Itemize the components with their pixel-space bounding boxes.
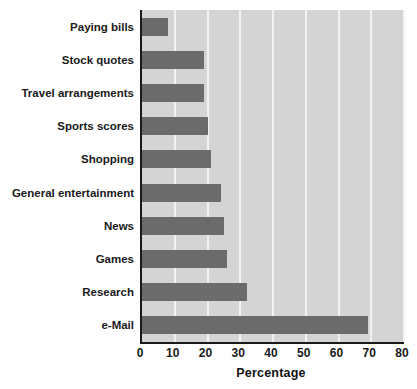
bar[interactable] [142, 84, 204, 102]
x-tick-label: 80 [395, 346, 408, 360]
category-label: e-Mail [0, 319, 134, 331]
category-axis-labels: Paying billsStock quotesTravel arrangeme… [0, 10, 134, 342]
category-label: News [0, 220, 134, 232]
plot-area [140, 10, 404, 344]
x-tick-label: 40 [264, 346, 277, 360]
x-tick-label: 30 [232, 346, 245, 360]
x-tick-label: 10 [166, 346, 179, 360]
x-tick-label: 60 [330, 346, 343, 360]
value-axis-tick-labels: 01020304050607080 [140, 346, 402, 364]
bar[interactable] [142, 150, 211, 168]
category-label: Sports scores [0, 120, 134, 132]
x-tick-label: 70 [363, 346, 376, 360]
x-tick-label: 50 [297, 346, 310, 360]
bar[interactable] [142, 217, 224, 235]
category-label: Games [0, 253, 134, 265]
x-tick-label: 0 [137, 346, 144, 360]
bar[interactable] [142, 316, 368, 334]
category-label: General entertainment [0, 187, 134, 199]
category-label: Stock quotes [0, 54, 134, 66]
x-axis-title: Percentage [140, 366, 402, 380]
category-label: Travel arrangements [0, 87, 134, 99]
bars-group [142, 10, 404, 342]
bar-chart: Paying billsStock quotesTravel arrangeme… [0, 0, 417, 389]
bar[interactable] [142, 184, 221, 202]
bar[interactable] [142, 250, 227, 268]
bar[interactable] [142, 18, 168, 36]
category-label: Paying bills [0, 21, 134, 33]
bar[interactable] [142, 283, 247, 301]
bar[interactable] [142, 51, 204, 69]
category-label: Research [0, 286, 134, 298]
bar[interactable] [142, 117, 208, 135]
x-tick-label: 20 [199, 346, 212, 360]
category-label: Shopping [0, 153, 134, 165]
